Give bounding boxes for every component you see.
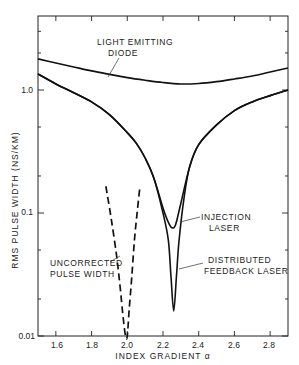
x-tick-label-1.6: 1.6	[51, 340, 63, 350]
y-tick-label-1: 1.0	[21, 85, 33, 95]
y-tick-label-0.1: 0.1	[21, 207, 33, 217]
led-label-line2: DIODE	[108, 48, 138, 58]
injection-label-line2: LASER	[209, 223, 240, 233]
uncorrected-label-line1: UNCORRECTED	[50, 258, 123, 268]
x-tick-label-2.8: 2.8	[263, 340, 275, 350]
x-tick-label-2.4: 2.4	[192, 340, 204, 350]
x-axis-title: INDEX GRADIENT α	[115, 351, 210, 361]
axis-ticks	[38, 16, 288, 336]
dfb-label-line1: DISTRIBUTED	[208, 255, 271, 265]
annotation-leaders	[108, 58, 203, 269]
dfb-leader	[179, 263, 203, 269]
y-axis-title: RMS PULSE WIDTH (NS/KM)	[10, 131, 20, 268]
x-tick-label-2.0: 2.0	[121, 340, 133, 350]
y-tick-label-0.01: 0.01	[18, 331, 35, 341]
data-curves	[38, 59, 288, 339]
x-tick-label-2.2: 2.2	[157, 340, 169, 350]
injection-leader	[180, 217, 200, 222]
uncorrected-label-line2: PULSE WIDTH	[50, 269, 115, 279]
led-label-line1: LIGHT EMITTING	[97, 37, 173, 47]
dfb-label-line2: FEEDBACK LASER	[204, 266, 288, 276]
injection-label-line1: INJECTION	[201, 212, 251, 222]
plot-frame	[38, 16, 288, 336]
light-emitting-diode-curve	[38, 59, 288, 84]
pulse-width-chart: LIGHT EMITTING DIODE INJECTION LASER DIS…	[0, 0, 299, 365]
injection-laser-curve	[38, 74, 288, 228]
x-tick-label-1.8: 1.8	[86, 340, 98, 350]
led-leader	[108, 58, 119, 77]
x-tick-label-2.6: 2.6	[228, 340, 240, 350]
